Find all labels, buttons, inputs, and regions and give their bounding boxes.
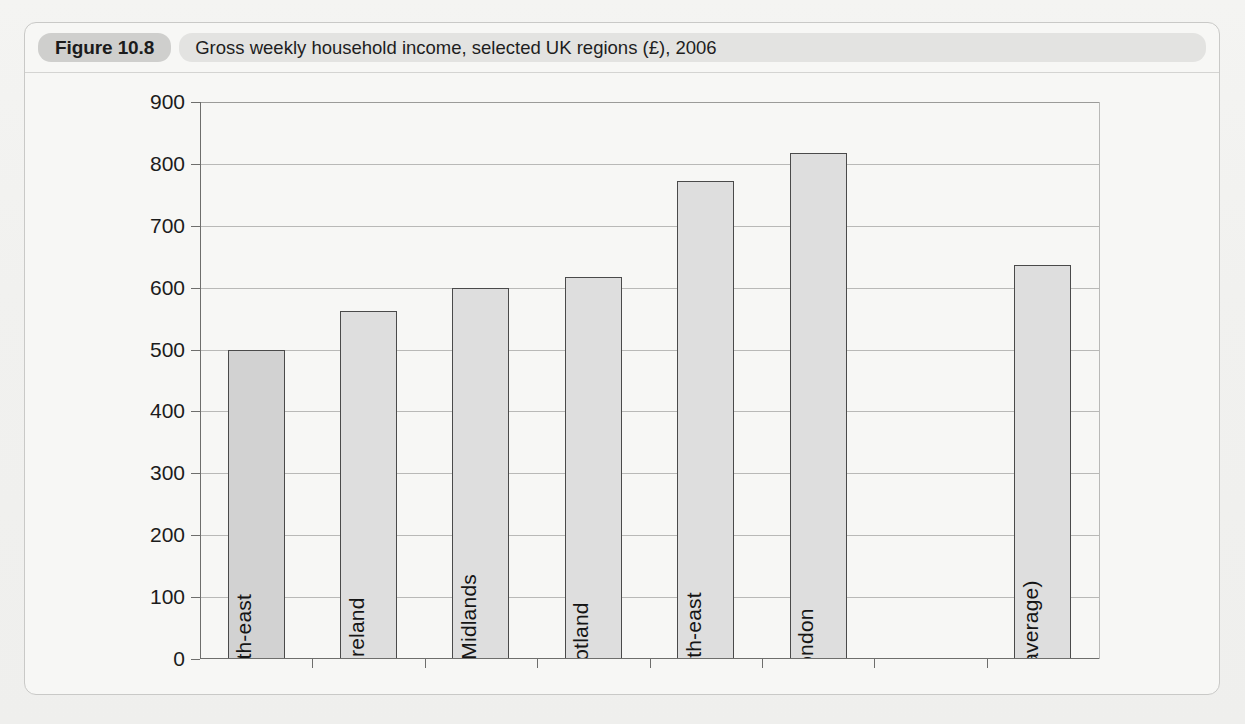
bar-label: London — [794, 608, 818, 659]
y-tick-400 — [191, 411, 200, 412]
y-tick-0 — [191, 659, 200, 660]
y-tick-label-500: 500 — [150, 338, 185, 362]
bar-label: North-east — [232, 594, 256, 659]
y-tick-800 — [191, 164, 200, 165]
y-tick-label-200: 200 — [150, 523, 185, 547]
y-tick-label-700: 700 — [150, 214, 185, 238]
plot-right-edge — [1099, 102, 1100, 659]
y-tick-label-0: 0 — [173, 647, 185, 671]
y-tick-600 — [191, 288, 200, 289]
y-axis-line — [200, 102, 201, 659]
y-tick-900 — [191, 102, 200, 103]
x-axis-line — [200, 658, 1100, 659]
x-tick-3 — [537, 659, 538, 668]
bar-label: Scotland — [569, 602, 593, 659]
gridline-400 — [200, 411, 1100, 412]
gridline-700 — [200, 226, 1100, 227]
x-tick-4 — [650, 659, 651, 668]
gridline-600 — [200, 288, 1100, 289]
x-tick-2 — [425, 659, 426, 668]
x-tick-6 — [874, 659, 875, 668]
bar-scotland[interactable]: Scotland — [565, 277, 622, 659]
bar-n-ireland[interactable]: N. Ireland — [340, 311, 397, 659]
gridline-300 — [200, 473, 1100, 474]
y-tick-label-400: 400 — [150, 399, 185, 423]
chart-body: 0100200300400500600700800900 North-eastN… — [25, 73, 1219, 694]
figure-caption: Gross weekly household income, selected … — [179, 33, 1206, 62]
bar-west-midlands[interactable]: West Midlands — [452, 288, 509, 659]
gridline-500 — [200, 350, 1100, 351]
figure-header: Figure 10.8 Gross weekly household incom… — [25, 23, 1219, 73]
figure-frame: Figure 10.8 Gross weekly household incom… — [24, 22, 1220, 695]
gridline-100 — [200, 597, 1100, 598]
y-tick-200 — [191, 535, 200, 536]
bar-label: South-east — [682, 592, 706, 659]
y-tick-label-800: 800 — [150, 152, 185, 176]
y-tick-label-300: 300 — [150, 461, 185, 485]
y-tick-300 — [191, 473, 200, 474]
y-tick-500 — [191, 350, 200, 351]
bar-north-east[interactable]: North-east — [228, 350, 285, 659]
bar-label: N. Ireland — [345, 597, 369, 659]
x-tick-7 — [987, 659, 988, 668]
bar-london[interactable]: London — [790, 153, 847, 659]
x-tick-5 — [762, 659, 763, 668]
figure-number-badge: Figure 10.8 — [38, 33, 171, 62]
y-tick-700 — [191, 226, 200, 227]
x-tick-1 — [312, 659, 313, 668]
bar-uk-average[interactable]: UK (average) — [1014, 265, 1071, 659]
bar-south-east[interactable]: South-east — [677, 181, 734, 659]
bar-label: UK (average) — [1019, 580, 1043, 659]
gridline-800 — [200, 164, 1100, 165]
gridline-200 — [200, 535, 1100, 536]
bar-label: West Midlands — [457, 574, 481, 659]
gridline-900 — [200, 102, 1100, 103]
y-tick-100 — [191, 597, 200, 598]
plot-area: 0100200300400500600700800900 North-eastN… — [200, 102, 1099, 659]
y-tick-label-100: 100 — [150, 585, 185, 609]
y-tick-label-900: 900 — [150, 90, 185, 114]
y-tick-label-600: 600 — [150, 276, 185, 300]
